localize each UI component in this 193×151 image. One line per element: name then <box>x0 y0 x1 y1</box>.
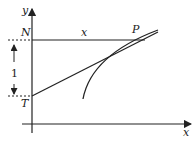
point-p-label: P <box>131 23 140 36</box>
tangent-line <box>32 32 158 96</box>
tangent-diagram: y x N P T x 1 <box>0 0 193 151</box>
y-axis-label: y <box>21 4 29 17</box>
point-t-label: T <box>21 97 30 110</box>
distance-label: 1 <box>11 67 18 80</box>
diagram: y x N P T x 1 <box>0 0 193 151</box>
point-n-label: N <box>20 26 31 39</box>
segment-np-label: x <box>81 26 88 39</box>
x-axis-label: x <box>183 126 190 139</box>
